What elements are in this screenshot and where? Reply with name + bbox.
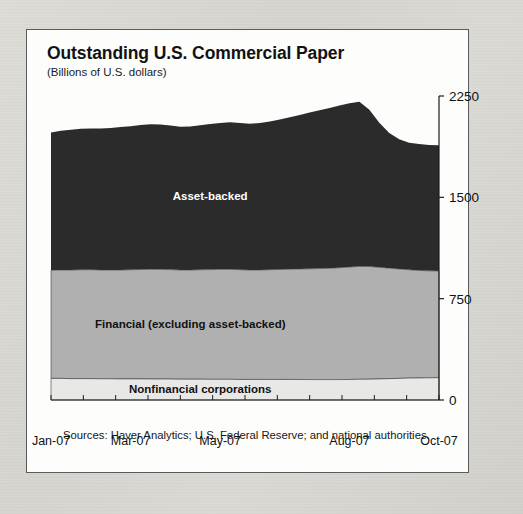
y-axis-tick-label: 2250 xyxy=(449,89,479,104)
y-axis-tick-label: 0 xyxy=(449,393,457,408)
y-axis-tick-label: 1500 xyxy=(449,190,479,205)
area-series xyxy=(51,102,439,271)
band-label-nonfinancial: Nonfinancial corporations xyxy=(129,383,272,395)
y-axis-tick-label: 750 xyxy=(449,291,472,306)
plot-area xyxy=(51,96,439,400)
chart-panel: Outstanding U.S. Commercial Paper (Billi… xyxy=(26,29,469,473)
source-note: Sources: Haver Analytics; U.S. Federal R… xyxy=(63,428,449,443)
chart-subtitle: (Billions of U.S. dollars) xyxy=(47,66,167,78)
stacked-area-svg xyxy=(51,96,439,400)
chart-title: Outstanding U.S. Commercial Paper xyxy=(47,43,344,64)
band-label-financial: Financial (excluding asset-backed) xyxy=(95,318,285,330)
band-label-asset-backed: Asset-backed xyxy=(173,190,248,202)
